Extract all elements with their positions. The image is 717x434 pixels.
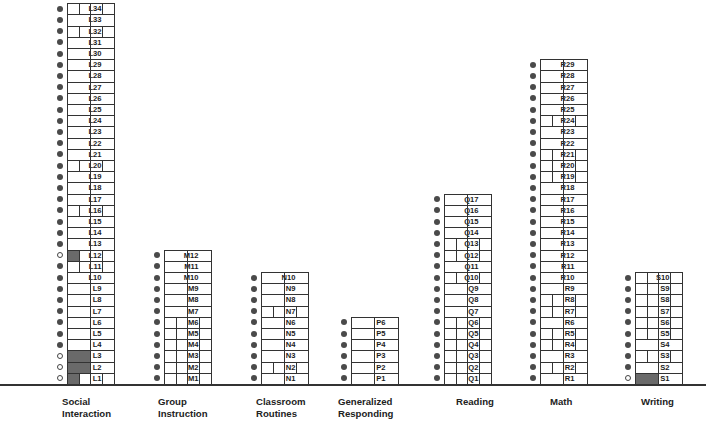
probe-cell-shaded [67, 350, 90, 361]
step-row: P6 [351, 317, 399, 328]
probe-box [67, 82, 115, 93]
probe-cell [563, 126, 587, 137]
probe-box [67, 126, 115, 137]
filled-circle-icon [57, 185, 63, 191]
probe-cell [67, 115, 90, 126]
probe-box [444, 306, 492, 317]
filled-circle-icon [154, 375, 160, 381]
step-row: M12 [164, 250, 212, 261]
filled-circle-icon [530, 118, 536, 124]
filled-circle-icon [57, 151, 63, 157]
probe-box [67, 205, 115, 216]
probe-cell [563, 227, 587, 238]
probe-box [444, 272, 492, 283]
probe-cell [563, 171, 575, 182]
filled-circle-icon [434, 319, 440, 325]
filled-circle-icon [530, 275, 536, 281]
probe-cell [467, 306, 491, 317]
probe-cell [540, 149, 552, 160]
domain-label-s: Writing [641, 396, 674, 408]
probe-cell [563, 138, 587, 149]
probe-cell [670, 317, 683, 328]
step-row: L7 [67, 306, 115, 317]
probe-cell [444, 317, 456, 328]
filled-circle-icon [434, 263, 440, 269]
filled-circle-icon [57, 331, 63, 337]
probe-cell [199, 339, 212, 350]
probe-cell [67, 194, 90, 205]
step-row: R10 [540, 272, 588, 283]
probe-cell [261, 294, 284, 305]
probe-cell [670, 272, 683, 283]
step-row: L18 [67, 182, 115, 193]
filled-circle-icon [154, 364, 160, 370]
probe-cell [658, 339, 682, 350]
probe-cell [444, 339, 456, 350]
probe-box [67, 238, 115, 249]
probe-cell-shaded [67, 250, 79, 261]
probe-cell [79, 373, 91, 384]
probe-cell [67, 294, 90, 305]
open-circle-icon [57, 353, 63, 359]
probe-cell [90, 216, 114, 227]
probe-cell [90, 373, 102, 384]
probe-cell [90, 160, 102, 171]
probe-cell [670, 328, 683, 339]
probe-box [67, 182, 115, 193]
step-row: R5 [540, 328, 588, 339]
probe-box [635, 306, 683, 317]
probe-cell [444, 362, 456, 373]
probe-box [540, 126, 588, 137]
probe-box [67, 250, 115, 261]
open-circle-icon [57, 375, 63, 381]
probe-cell [284, 328, 308, 339]
probe-box [67, 93, 115, 104]
probe-cell [479, 362, 492, 373]
filled-circle-icon [530, 107, 536, 113]
filled-circle-icon [251, 297, 257, 303]
probe-cell [176, 328, 188, 339]
step-row: L22 [67, 138, 115, 149]
probe-cell [176, 339, 188, 350]
probe-box [540, 70, 588, 81]
baseline-axis [0, 384, 706, 386]
step-row: P2 [351, 362, 399, 373]
probe-box [261, 294, 309, 305]
step-row: Q16 [444, 205, 492, 216]
step-row: Q4 [444, 339, 492, 350]
step-row: R19 [540, 171, 588, 182]
probe-cell [467, 238, 479, 249]
probe-cell [563, 328, 575, 339]
filled-circle-icon [57, 39, 63, 45]
probe-box [164, 306, 212, 317]
step-row: M1 [164, 373, 212, 384]
probe-cell [540, 328, 552, 339]
probe-cell [90, 70, 114, 81]
probe-cell [540, 205, 563, 216]
probe-cell [90, 149, 114, 160]
step-row: R21 [540, 149, 588, 160]
step-row: L5 [67, 328, 115, 339]
probe-box [164, 272, 212, 283]
probe-cell [456, 317, 468, 328]
probe-cell [90, 26, 102, 37]
probe-box [67, 272, 115, 283]
probe-cell [90, 250, 102, 261]
step-row: N1 [261, 373, 309, 384]
step-row: R9 [540, 283, 588, 294]
probe-box [164, 339, 212, 350]
probe-cell [164, 373, 176, 384]
probe-box [540, 227, 588, 238]
probe-cell [456, 238, 468, 249]
skill-grid-chart: L1L2L3L4L5L6L7L8L9L10L11L12L13L14L15L16L… [0, 0, 717, 434]
step-row: L19 [67, 171, 115, 182]
filled-circle-icon [530, 129, 536, 135]
probe-box [351, 339, 399, 350]
step-row: L28 [67, 70, 115, 81]
probe-cell [575, 115, 588, 126]
filled-circle-icon [57, 319, 63, 325]
probe-cell [563, 205, 587, 216]
step-row: Q5 [444, 328, 492, 339]
probe-cell [296, 362, 309, 373]
filled-circle-icon [251, 375, 257, 381]
